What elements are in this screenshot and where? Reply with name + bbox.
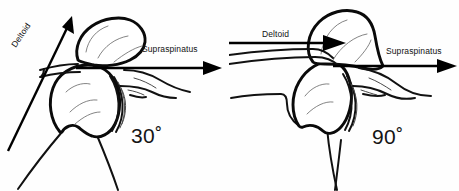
glenoid-coracoid-30 <box>120 70 190 98</box>
supraspinatus-label-panel-90: Supraspinatus <box>386 47 442 56</box>
arm-outline-90 <box>231 94 299 126</box>
deltoid-label-panel-90: Deltoid <box>262 30 289 39</box>
humeral-head-90 <box>293 62 352 134</box>
acromion-30 <box>77 18 145 66</box>
panel-30-drawing <box>0 0 229 191</box>
anatomy-figure: Deltoid Supraspinatus 30˚ Deltoid Supras… <box>0 0 459 191</box>
glenoid-coracoid-90 <box>353 68 431 99</box>
acromion-90 <box>308 10 383 69</box>
angle-label-panel-90: 90˚ <box>372 126 404 147</box>
angle-label-panel-30: 30˚ <box>131 125 163 146</box>
humeral-shaft-30 <box>18 132 118 190</box>
humeral-shaft-90 <box>327 128 341 190</box>
supraspinatus-label-panel-30: Supraspinatus <box>142 45 198 54</box>
